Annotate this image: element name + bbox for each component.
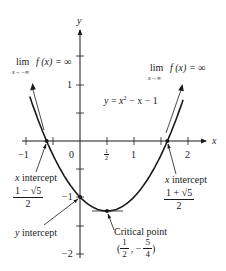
left-x-intercept-point bbox=[45, 139, 49, 143]
critical-point-label: Critical point bbox=[114, 227, 167, 237]
right-x-intercept-leader bbox=[168, 144, 176, 174]
y-axis-label: y bbox=[77, 16, 81, 26]
y-tick-label: 1 bbox=[67, 80, 72, 90]
right-x-intercept-label: xx intercept intercept bbox=[165, 175, 207, 185]
y-intercept-label: yy intercept intercept bbox=[15, 228, 57, 238]
right-x-intercept-point bbox=[165, 139, 169, 143]
x-tick-label: 2 bbox=[185, 150, 190, 160]
right-limit-lim: lim bbox=[150, 63, 163, 73]
right-limit-subscript: x→∞ bbox=[148, 75, 161, 81]
critical-point bbox=[105, 209, 109, 213]
x-tick-label: −1 bbox=[18, 150, 29, 160]
y-tick-label: −2 bbox=[62, 249, 73, 259]
right-limit-expression: f (x) = ∞ bbox=[170, 63, 205, 73]
left-x-intercept-value: 1 − √5 2 bbox=[13, 186, 43, 209]
left-limit-expression: f (x) = ∞ bbox=[36, 57, 71, 67]
critical-point-coordinates: ( 12 , − 54 ) bbox=[117, 238, 155, 259]
equation-label: y = x2 − x − 1 bbox=[104, 95, 158, 106]
left-x-intercept-leader bbox=[36, 144, 46, 172]
y-tick-label: −1 bbox=[62, 192, 73, 202]
y-intercept-leader bbox=[44, 199, 78, 225]
x-tick-label-half: 1 2 bbox=[104, 148, 109, 161]
y-intercept-point bbox=[78, 195, 82, 199]
left-x-intercept-label: xx intercept intercept bbox=[15, 173, 57, 183]
right-x-intercept-value: 1 + √5 2 bbox=[164, 188, 194, 211]
left-limit-subscript: x→−∞ bbox=[12, 69, 29, 75]
left-limit-lim: lim bbox=[16, 57, 29, 67]
x-tick-label: 0 bbox=[69, 150, 74, 160]
x-tick-label: 1 bbox=[131, 150, 136, 160]
x-axis-label: x bbox=[212, 136, 216, 146]
